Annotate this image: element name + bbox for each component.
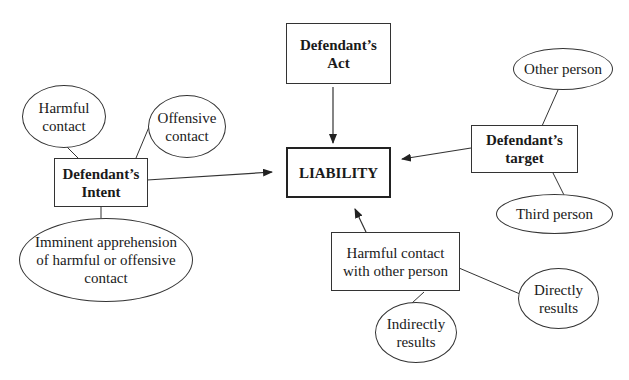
act-label: Defendant’s Act bbox=[300, 36, 377, 72]
harmful-contact-ellipse: Harmful contact bbox=[22, 85, 106, 148]
defendants-intent-node: Defendant’s Intent bbox=[54, 158, 148, 207]
intent-label: Defendant’s Intent bbox=[63, 165, 140, 201]
other-person-label: Other person bbox=[524, 60, 602, 78]
defendants-target-node: Defendant’s target bbox=[471, 125, 578, 173]
liability-label: LIABILITY bbox=[299, 164, 378, 182]
offensive-contact-ellipse: Offensive contact bbox=[148, 95, 226, 158]
offensive-contact-label: Offensive contact bbox=[158, 109, 217, 145]
third-person-ellipse: Third person bbox=[496, 194, 613, 234]
harmful-contact-label: Harmful contact bbox=[39, 99, 90, 135]
imminent-apprehension-ellipse: Imminent apprehension of harmful or offe… bbox=[19, 218, 193, 302]
directly-results-ellipse: Directly results bbox=[518, 268, 599, 329]
liability-node: LIABILITY bbox=[286, 147, 391, 198]
harmful-contact-node: Harmful contact with other person bbox=[331, 232, 460, 291]
other-person-ellipse: Other person bbox=[513, 48, 613, 90]
indirectly-results-ellipse: Indirectly results bbox=[375, 302, 457, 363]
target-label: Defendant’s target bbox=[486, 131, 563, 167]
third-person-label: Third person bbox=[516, 205, 593, 223]
contact-label: Harmful contact with other person bbox=[343, 244, 448, 280]
defendants-act-node: Defendant’s Act bbox=[286, 23, 391, 84]
indirectly-results-label: Indirectly results bbox=[387, 315, 445, 351]
directly-results-label: Directly results bbox=[534, 281, 583, 317]
imminent-apprehension-label: Imminent apprehension of harmful or offe… bbox=[35, 233, 177, 287]
